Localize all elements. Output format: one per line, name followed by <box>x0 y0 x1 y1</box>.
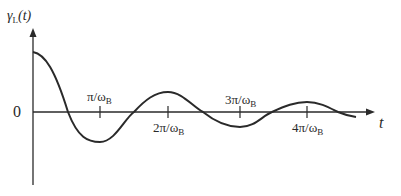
tick-label-1-text: π/ω <box>87 89 106 104</box>
x-axis-arrow-icon <box>366 109 375 116</box>
y-label-argument: (t) <box>18 8 31 23</box>
origin-label: 0 <box>13 104 21 120</box>
y-axis-arrow-icon <box>30 28 37 37</box>
tick-label-4-text: 4π/ω <box>292 120 317 135</box>
tick-label-3: 3π/ωB <box>225 93 256 109</box>
x-axis-label: t <box>379 115 383 131</box>
tick-label-2: 2π/ωB <box>153 121 184 137</box>
tick-label-3-text: 3π/ω <box>225 92 250 107</box>
tick-label-1-sub: B <box>106 96 112 106</box>
tick-label-2-text: 2π/ω <box>153 120 178 135</box>
tick-label-4-sub: B <box>317 127 323 137</box>
tick-label-2-sub: B <box>178 127 184 137</box>
tick-label-1: π/ωB <box>87 90 112 106</box>
tick-label-3-sub: B <box>250 99 256 109</box>
y-axis-label: γL(t) <box>7 9 31 25</box>
chart-canvas <box>0 0 401 196</box>
tick-label-4: 4π/ωB <box>292 121 323 137</box>
